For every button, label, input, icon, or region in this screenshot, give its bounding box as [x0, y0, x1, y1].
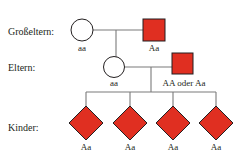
genotype-label-mother: aa — [110, 79, 118, 88]
individual-child-4-diamond[interactable] — [199, 106, 233, 140]
individual-grandfather-square[interactable] — [143, 19, 165, 41]
genotype-label-grandmother: aa — [78, 44, 86, 53]
genotype-label-child-4: Aa — [211, 143, 222, 152]
row-label-parents: Eltern: — [8, 63, 35, 73]
genotype-label-grandfather: Aa — [149, 44, 160, 53]
individual-father-square[interactable] — [172, 53, 193, 74]
individual-child-2-diamond[interactable] — [113, 106, 147, 140]
row-label-children: Kinder: — [8, 123, 39, 133]
row-label-grandparents: Großeltern: — [8, 27, 54, 37]
genotype-label-child-1: Aa — [81, 143, 92, 152]
individual-mother-circle[interactable] — [104, 57, 125, 78]
individual-child-1-diamond[interactable] — [69, 106, 103, 140]
pedigree-diagram: Großeltern: Eltern: Kinder: aa Aa aa AA … — [0, 0, 242, 156]
genotype-label-child-3: Aa — [168, 143, 179, 152]
genotype-label-child-2: Aa — [125, 143, 136, 152]
individual-child-3-diamond[interactable] — [156, 106, 190, 140]
individual-grandmother-circle[interactable] — [71, 19, 93, 41]
genotype-label-father: AA oder Aa — [163, 79, 206, 88]
